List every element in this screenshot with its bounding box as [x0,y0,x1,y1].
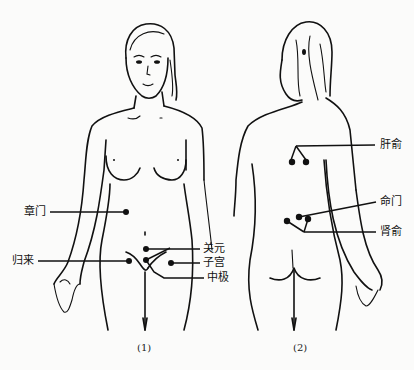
acupoint-label-guanyuan: 关元 [203,243,225,255]
figure-line-art [0,0,414,370]
back-figure [234,22,382,330]
panel-caption-front: (1) [137,342,151,353]
acupoint-label-zhongji: 中极 [207,272,229,284]
acupoint-diagram: 章门 归来 关元 子宫 中极 肝俞 命门 肾俞 (1) (2) [0,0,414,370]
front-figure [54,24,212,330]
panel-caption-back: (2) [293,342,307,353]
acupoint-label-ganshu: 肝俞 [380,139,402,151]
acupoint-label-zhangmen: 章门 [24,206,46,218]
acupoint-label-guilai: 归来 [12,255,34,267]
front-acupoint-markers [38,209,204,278]
back-acupoint-markers [284,145,376,232]
acupoint-label-shenshu: 肾俞 [380,226,402,238]
acupoint-label-mingmen: 命门 [380,196,402,208]
acupoint-label-zigong: 子宫 [203,257,225,269]
